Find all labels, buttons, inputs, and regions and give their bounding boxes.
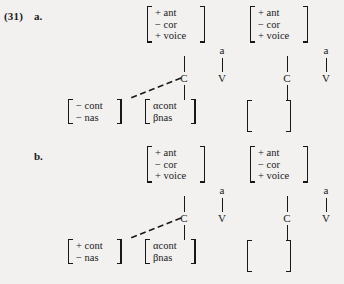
b-right-root-feature-matrix: + ant − cor + voice [250,146,308,183]
b-left-vowel-melody: a [216,185,228,196]
phonology-example-figure: (31) a. + ant − cor + voice C a V − cont… [0,0,344,284]
feature-row: + voice [258,170,289,182]
bracket-right [286,240,291,272]
feature-row: − cor [258,159,289,171]
b-right-c-to-empty-line [287,225,288,240]
bracket-left [250,146,255,183]
b-right-a-to-v-line [326,198,327,212]
feature-row: αcont [153,240,177,252]
feature-row: βnas [153,252,177,264]
b-alpha-feature-matrix: αcont βnas [145,239,196,264]
bracket-left [68,239,73,264]
b-right-matrix-to-c-line [287,196,288,212]
feature-row: + ant [258,147,289,159]
feature-row: − nas [76,252,103,264]
bracket-left [145,239,150,264]
b-right-v-node: V [320,213,332,224]
bracket-left [247,240,252,272]
b-left-v-node: V [216,213,228,224]
feature-row: + cont [76,240,103,252]
b-left-a-to-v-line [222,198,223,212]
b-right-vowel-melody: a [320,185,332,196]
b-right-c-node: C [281,213,293,224]
b-target-feature-matrix: + cont − nas [68,239,122,264]
bracket-right [191,239,196,264]
bracket-right [117,239,122,264]
bracket-right [303,146,308,183]
b-empty-feature-matrix [247,240,291,272]
